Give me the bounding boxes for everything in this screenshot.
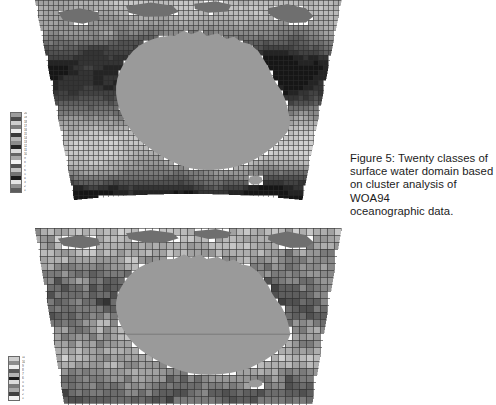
legend-color-bar-lower	[8, 356, 20, 401]
legend-tick-labels-lower: 1110987654321	[22, 356, 25, 401]
surface-water-domain-map-lower	[33, 228, 343, 405]
legend-color-bar-upper	[10, 112, 22, 193]
map-raster-upper	[33, 0, 343, 205]
legend-swatch	[9, 396, 19, 400]
legend-swatch	[11, 188, 21, 192]
class-legend-upper: 2019181716151413121110987654321	[10, 112, 27, 193]
legend-tick-labels-upper: 2019181716151413121110987654321	[24, 112, 27, 193]
class-legend-lower: 1110987654321	[8, 356, 25, 401]
map-raster-lower	[33, 228, 343, 405]
legend-tick: 1	[24, 189, 27, 193]
figure-container: 2019181716151413121110987654321 11109876…	[0, 0, 496, 405]
surface-water-domain-map-upper	[33, 0, 343, 205]
figure-caption: Figure 5: Twenty classes of surface wate…	[350, 152, 496, 218]
legend-tick: 1	[22, 397, 25, 401]
